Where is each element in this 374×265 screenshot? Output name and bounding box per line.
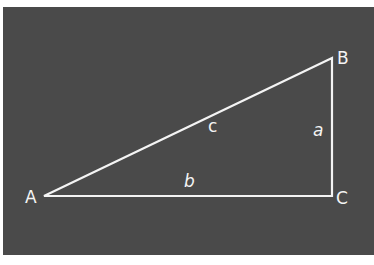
vertex-label-c: C bbox=[336, 190, 348, 207]
vertex-label-b: B bbox=[337, 50, 349, 67]
side-label-a: a bbox=[313, 122, 323, 139]
side-label-b: b bbox=[184, 173, 195, 190]
side-label-c: c bbox=[208, 118, 217, 135]
vertex-label-a: A bbox=[25, 189, 37, 206]
